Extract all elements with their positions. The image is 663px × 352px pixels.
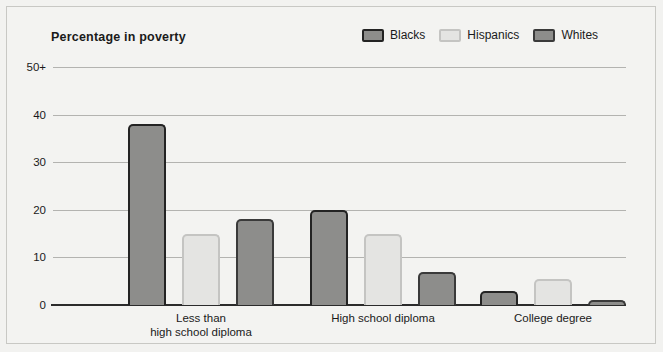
x-axis-category-label: Less than high school diploma (150, 311, 252, 339)
y-axis-tick-label: 0 (40, 299, 46, 311)
chart-screenshot: Percentage in poverty BlacksHispanicsWhi… (0, 0, 663, 352)
y-axis-tick-label: 40 (33, 109, 46, 121)
legend-item-whites[interactable]: Whites (533, 28, 598, 42)
bar-blacks-group-2[interactable] (310, 210, 348, 305)
bar-blacks-group-1[interactable] (128, 124, 166, 305)
legend-swatch-icon (362, 29, 384, 42)
x-axis-category-label: High school diploma (331, 311, 435, 325)
chart-legend: BlacksHispanicsWhites (362, 28, 612, 42)
y-axis-tick-label: 10 (33, 251, 46, 263)
gridline (53, 115, 626, 116)
bar-blacks-group-3[interactable] (480, 291, 518, 305)
legend-swatch-icon (439, 29, 461, 42)
legend-label: Hispanics (467, 28, 519, 42)
legend-label: Blacks (390, 28, 425, 42)
bar-whites-group-3[interactable] (588, 300, 626, 305)
chart-title: Percentage in poverty (51, 30, 186, 44)
legend-label: Whites (561, 28, 598, 42)
chart-panel: Percentage in poverty BlacksHispanicsWhi… (6, 6, 656, 344)
x-axis-category-label: College degree (514, 311, 592, 325)
bar-whites-group-1[interactable] (236, 219, 274, 305)
bar-hispanics-group-3[interactable] (534, 279, 572, 305)
legend-item-blacks[interactable]: Blacks (362, 28, 425, 42)
bar-whites-group-2[interactable] (418, 272, 456, 305)
y-axis-tick-label: 30 (33, 156, 46, 168)
y-axis-tick-label: 20 (33, 204, 46, 216)
bar-hispanics-group-2[interactable] (364, 234, 402, 305)
y-axis-tick-label: 50+ (26, 61, 46, 73)
legend-item-hispanics[interactable]: Hispanics (439, 28, 519, 42)
bar-hispanics-group-1[interactable] (182, 234, 220, 305)
legend-swatch-icon (533, 29, 555, 42)
plot-area: 01020304050+ (53, 67, 626, 305)
gridline (53, 67, 626, 68)
